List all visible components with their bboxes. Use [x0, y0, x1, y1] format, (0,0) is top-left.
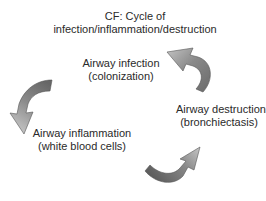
curved-arrow-icon — [145, 147, 200, 182]
cycle-arrows — [0, 0, 266, 201]
curved-arrow-icon — [167, 48, 210, 92]
curved-arrow-icon — [10, 80, 52, 134]
